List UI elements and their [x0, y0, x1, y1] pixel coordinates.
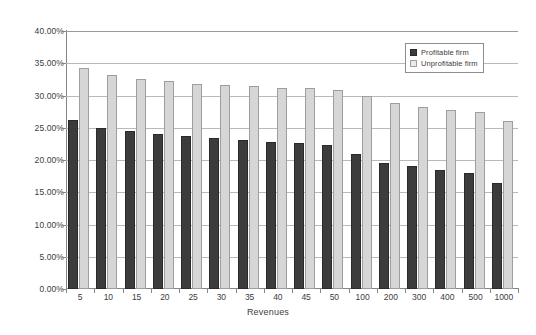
bar-group — [207, 31, 235, 289]
chart-legend: Profitable firm Unprofitable firm — [405, 43, 484, 73]
x-axis-tick-label: 5 — [66, 292, 94, 303]
bar-group — [94, 31, 122, 289]
bar-profitable — [435, 170, 445, 289]
x-axis-tick-label: 400 — [433, 292, 461, 303]
bar-profitable — [68, 120, 78, 289]
bar-unprofitable — [79, 68, 89, 289]
bar-profitable — [379, 163, 389, 289]
bar-profitable — [181, 136, 191, 289]
bar-profitable — [351, 154, 361, 289]
x-axis-tick-label: 45 — [292, 292, 320, 303]
x-axis-tick-label: 50 — [320, 292, 348, 303]
x-axis-tick-label: 10 — [94, 292, 122, 303]
bar-group — [123, 31, 151, 289]
x-axis-label-group: 51015202530354045501002003004005001000 — [66, 292, 518, 308]
bar-group — [349, 31, 377, 289]
y-axis-tick-label: 25.00% — [8, 123, 64, 132]
light-square-swatch-icon — [410, 60, 417, 67]
bar-unprofitable — [220, 85, 230, 289]
bar-group — [490, 31, 518, 289]
x-axis-title: Revenues — [0, 307, 536, 317]
y-axis-tick-label: 10.00% — [8, 220, 64, 229]
x-axis-tick-label: 15 — [123, 292, 151, 303]
bar-group — [236, 31, 264, 289]
bar-unprofitable — [333, 90, 343, 289]
y-axis-tick-label: 30.00% — [8, 91, 64, 100]
bar-unprofitable — [446, 110, 456, 289]
legend-item-profitable-firm: Profitable firm — [410, 47, 478, 58]
y-axis-label-group: 0.00%5.00%10.00%15.00%20.00%25.00%30.00%… — [6, 0, 64, 335]
bar-profitable — [209, 138, 219, 289]
y-axis-tick-label: 35.00% — [8, 59, 64, 68]
x-axis-tick-label: 20 — [151, 292, 179, 303]
legend-label: Profitable firm — [421, 48, 469, 57]
x-axis-tick-label: 200 — [377, 292, 405, 303]
bar-unprofitable — [164, 81, 174, 289]
bar-profitable — [96, 128, 106, 289]
bar-group — [264, 31, 292, 289]
y-axis-tick-label: 20.00% — [8, 156, 64, 165]
x-axis-tick-label: 100 — [349, 292, 377, 303]
legend-item-unprofitable-firm: Unprofitable firm — [410, 58, 478, 69]
bar-profitable — [153, 134, 163, 289]
bar-group — [292, 31, 320, 289]
bar-unprofitable — [192, 84, 202, 289]
bar-profitable — [125, 131, 135, 289]
y-axis-tick-label: 40.00% — [8, 27, 64, 36]
bar-profitable — [492, 183, 502, 289]
bar-unprofitable — [107, 75, 117, 289]
bar-unprofitable — [277, 88, 287, 289]
legend-label: Unprofitable firm — [421, 59, 478, 68]
x-axis-tick-label: 300 — [405, 292, 433, 303]
bar-group — [377, 31, 405, 289]
x-axis-tick-label: 40 — [264, 292, 292, 303]
bar-unprofitable — [249, 86, 259, 289]
bar-chart: 0.00%5.00%10.00%15.00%20.00%25.00%30.00%… — [0, 0, 536, 335]
bar-profitable — [322, 145, 332, 289]
bar-group — [66, 31, 94, 289]
x-axis-tick-label: 500 — [462, 292, 490, 303]
bar-profitable — [266, 142, 276, 289]
y-axis-tick-label: 5.00% — [8, 252, 64, 261]
x-axis-tick-mark — [518, 289, 519, 293]
bar-group — [320, 31, 348, 289]
y-axis-tick-label: 0.00% — [8, 285, 64, 294]
bar-unprofitable — [305, 88, 315, 289]
x-axis-tick-label: 25 — [179, 292, 207, 303]
bar-unprofitable — [136, 79, 146, 289]
y-axis-tick-label: 15.00% — [8, 188, 64, 197]
x-axis-tick-label: 1000 — [490, 292, 518, 303]
bar-unprofitable — [475, 112, 485, 289]
bar-profitable — [407, 166, 417, 289]
bar-group — [151, 31, 179, 289]
x-axis-tick-label: 35 — [236, 292, 264, 303]
bar-group — [179, 31, 207, 289]
bar-unprofitable — [503, 121, 513, 289]
bar-profitable — [464, 173, 474, 289]
bar-unprofitable — [390, 103, 400, 289]
dark-square-swatch-icon — [410, 49, 417, 56]
x-axis-tick-label: 30 — [207, 292, 235, 303]
bar-profitable — [294, 143, 304, 289]
bar-profitable — [238, 140, 248, 289]
bar-unprofitable — [418, 107, 428, 289]
bar-unprofitable — [362, 96, 372, 289]
